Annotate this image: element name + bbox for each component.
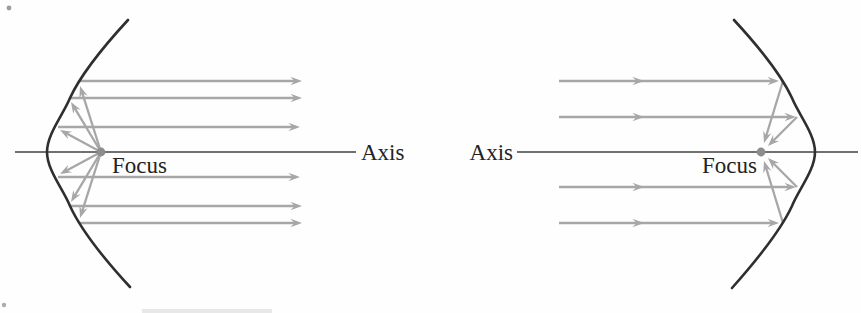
figure-canvas: Axis Focus Axis Focus bbox=[0, 0, 861, 313]
axis-label: Axis bbox=[361, 140, 405, 165]
arrowhead-icon bbox=[58, 126, 72, 139]
reflected-parallel-ray bbox=[70, 94, 302, 103]
cropped-caption-smudge bbox=[142, 309, 272, 313]
emitting-geometry-layer bbox=[15, 20, 356, 287]
incoming-parallel-ray bbox=[559, 113, 796, 122]
incoming-parallel-ray bbox=[559, 219, 779, 228]
arrowhead-icon bbox=[58, 165, 72, 178]
diagram-emitting-mirror: Axis Focus bbox=[15, 20, 405, 287]
incoming-parallel-ray bbox=[559, 77, 779, 86]
reflected-parallel-ray bbox=[70, 202, 302, 211]
axis-label: Axis bbox=[470, 140, 514, 165]
focus-point bbox=[757, 148, 766, 157]
arrowhead-icon bbox=[76, 206, 88, 220]
parabolic-reflector-figure: Axis Focus Axis Focus bbox=[0, 0, 861, 313]
collecting-geometry-layer bbox=[517, 20, 858, 288]
arrowhead-icon bbox=[76, 85, 88, 99]
focus-label: Focus bbox=[702, 153, 757, 178]
incoming-parallel-ray bbox=[559, 183, 796, 192]
reflected-parallel-ray bbox=[79, 77, 302, 86]
diagram-collecting-mirror: Axis Focus bbox=[470, 20, 858, 288]
scan-speck bbox=[7, 6, 12, 11]
scan-speck bbox=[2, 303, 6, 307]
focus-point bbox=[97, 148, 106, 157]
focus-label: Focus bbox=[112, 153, 167, 178]
reflected-parallel-ray bbox=[79, 219, 302, 228]
